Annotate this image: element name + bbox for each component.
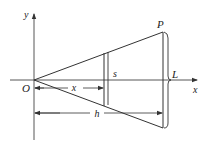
l-label: L (171, 68, 178, 80)
origin-label: O (22, 82, 30, 94)
x-dim-label: x (71, 82, 77, 93)
y-axis-label: y (23, 9, 29, 20)
cone-lower-edge (34, 80, 163, 128)
cone-upper-edge (34, 32, 163, 80)
h-dim-label: h (95, 108, 100, 119)
s-label: s (113, 68, 117, 79)
x-axis-label: x (192, 84, 198, 95)
point-p-label: P (156, 18, 164, 30)
cone-diagram: y x O P s L x h (0, 0, 205, 149)
